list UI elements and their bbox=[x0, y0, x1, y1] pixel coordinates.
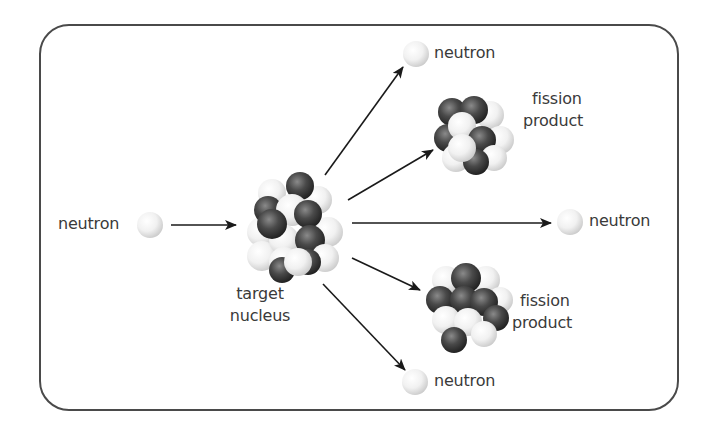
arrow-to-neutron-top bbox=[325, 67, 403, 175]
arrow-to-fission-product-top bbox=[348, 150, 433, 200]
neutron-top-icon bbox=[403, 41, 429, 67]
arrow-to-neutron-bottom bbox=[323, 284, 405, 370]
fission-product-top-icon bbox=[434, 96, 514, 175]
fission-diagram: neutron target nucleus neutron fission p… bbox=[0, 0, 709, 437]
neutron-top-label: neutron bbox=[434, 42, 495, 64]
neutron-incoming-icon bbox=[137, 212, 163, 238]
neutron-right-label: neutron bbox=[589, 210, 650, 232]
fission-product-bottom-label-line2: product bbox=[512, 312, 572, 334]
fission-product-bottom-label-line1: fission bbox=[520, 290, 570, 312]
neutron-bottom-label: neutron bbox=[434, 370, 495, 392]
fission-product-bottom-icon bbox=[426, 263, 513, 353]
fission-product-top-label-line2: product bbox=[523, 110, 583, 132]
neutron-bottom-icon bbox=[402, 369, 428, 395]
neutron-right-icon bbox=[557, 209, 583, 235]
target-nucleus-icon bbox=[247, 172, 343, 283]
target-nucleus-label-line2: nucleus bbox=[222, 305, 298, 327]
arrow-to-fission-product-bottom bbox=[352, 258, 420, 290]
fission-product-top-label-line1: fission bbox=[532, 88, 582, 110]
target-nucleus-label-line1: target bbox=[222, 283, 298, 305]
incoming-neutron-label: neutron bbox=[58, 213, 119, 235]
